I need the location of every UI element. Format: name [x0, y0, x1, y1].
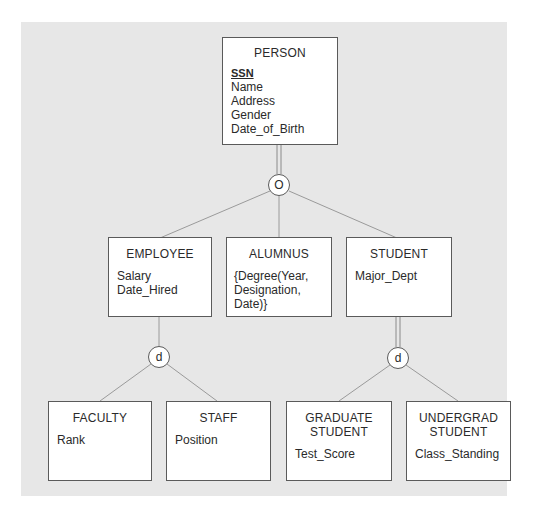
attribute: Date_of_Birth [231, 122, 337, 136]
entity-name-line2: STUDENT [407, 425, 510, 439]
attribute: Test_Score [295, 447, 391, 461]
attribute: Name [231, 80, 337, 94]
entity-name: EMPLOYEE [109, 247, 211, 261]
entity-name-line1: GRADUATE [287, 411, 391, 425]
multivalued-composite-attribute: Date)} [234, 297, 331, 311]
entity-faculty: FACULTY Rank [48, 401, 152, 481]
attribute: Major_Dept [355, 269, 451, 283]
entity-graduate-student: GRADUATE STUDENT Test_Score [286, 401, 392, 481]
disjoint-symbol-student: d [387, 347, 409, 369]
overlap-symbol: O [268, 174, 290, 196]
attribute: Salary [117, 269, 211, 283]
entity-name: STAFF [167, 411, 270, 425]
entity-name-line1: UNDERGRAD [407, 411, 510, 425]
attribute: Class_Standing [415, 447, 510, 461]
entity-name: FACULTY [49, 411, 151, 425]
entity-name: STUDENT [347, 247, 451, 261]
entity-student: STUDENT Major_Dept [346, 237, 452, 317]
attribute: Gender [231, 108, 337, 122]
entity-name: ALUMNUS [227, 247, 331, 261]
entity-name: UNDERGRAD STUDENT [407, 411, 510, 439]
attribute: Date_Hired [117, 283, 211, 297]
entity-person: PERSON SSN Name Address Gender Date_of_B… [222, 37, 338, 145]
multivalued-composite-attribute: {Degree(Year, [234, 269, 331, 283]
entity-name: PERSON [223, 46, 337, 60]
entity-name: GRADUATE STUDENT [287, 411, 391, 439]
entity-name-line2: STUDENT [287, 425, 391, 439]
key-attribute: SSN [231, 66, 337, 80]
entity-undergrad-student: UNDERGRAD STUDENT Class_Standing [406, 401, 511, 481]
attribute: Position [175, 433, 270, 447]
entity-employee: EMPLOYEE Salary Date_Hired [108, 237, 212, 317]
multivalued-composite-attribute: Designation, [234, 283, 331, 297]
disjoint-symbol-employee: d [148, 346, 170, 368]
attribute: Address [231, 94, 337, 108]
attribute: Rank [57, 433, 151, 447]
entity-staff: STAFF Position [166, 401, 271, 481]
entity-alumnus: ALUMNUS {Degree(Year, Designation, Date)… [226, 237, 332, 317]
